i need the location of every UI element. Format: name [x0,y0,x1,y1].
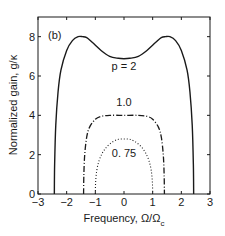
y-tick-labels: 02468 [29,31,35,200]
x-tick-label: −1 [89,196,102,208]
panel-label: (b) [48,29,61,41]
x-tick-label: 0 [121,196,127,208]
y-tick-label: 4 [29,109,35,121]
series-label: 0. 75 [112,147,136,159]
y-tick-label: 2 [29,149,35,161]
x-tick-label: 3 [207,196,213,208]
x-tick-label: −2 [60,196,73,208]
gain-spectrum-chart: −3−2−10123 02468 (b) p = 21.00. 75 Frequ… [0,0,225,236]
x-tick-label: 2 [178,196,184,208]
y-tick-label: 8 [29,31,35,43]
series-annotations: p = 21.00. 75 [112,60,137,159]
series-label: 1.0 [116,96,131,108]
y-tick-label: 0 [29,188,35,200]
x-axis-label: Frequency, Ω/Ωc [84,212,165,228]
y-axis-label: Normalized gain, g/κ [7,54,19,155]
y-tick-label: 6 [29,70,35,82]
x-tick-labels: −3−2−10123 [32,196,213,208]
series-label: p = 2 [112,60,137,72]
x-tick-label: 1 [150,196,156,208]
